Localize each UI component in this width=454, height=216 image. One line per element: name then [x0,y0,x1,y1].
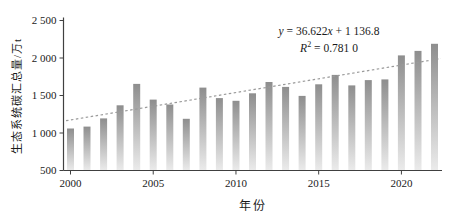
y-tick-label: 500 [40,164,57,176]
trendline-annotation: y = 36.622x + 1 136.8 R2 = 0.781 0 [245,24,413,55]
bar-2014 [299,96,306,171]
bar-2012 [266,82,273,171]
bar-2006 [166,105,173,171]
bar-2011 [249,93,256,170]
bar-2001 [84,127,91,171]
x-tick-label: 2000 [60,177,83,189]
bar-2004 [133,84,140,171]
bar-2000 [67,129,74,171]
y-tick-label: 1 500 [32,89,57,101]
y-tick-label: 1 000 [32,127,57,139]
bar-2003 [117,105,124,170]
x-tick-label: 2020 [390,177,413,189]
y-tick-label: 2 000 [32,52,57,64]
x-tick-label: 2015 [308,177,331,189]
bar-2013 [282,87,289,171]
bar-2022 [431,44,438,171]
bar-2002 [100,118,107,170]
trendline-r-squared: R2 = 0.781 0 [245,38,413,55]
bar-2018 [365,80,372,170]
bar-2017 [348,85,355,170]
bar-2019 [381,79,388,170]
bar-2007 [183,119,190,171]
bar-2021 [415,51,422,171]
y-tick-label: 2 500 [32,14,57,26]
bar-2010 [233,101,240,171]
carbon-sink-bar-chart: 5001 0001 5002 0002 50020002005201020152… [0,0,454,216]
bar-2005 [150,100,157,171]
bar-2009 [216,98,223,170]
bar-2015 [315,84,322,170]
bar-2008 [199,88,206,171]
x-tick-label: 2010 [225,177,248,189]
bar-2016 [332,75,339,171]
trendline-equation: y = 36.622x + 1 136.8 [245,24,413,38]
y-axis-title: 生态系统碳汇总量/万t [8,16,24,176]
x-axis-title: 年份 [63,196,443,214]
bar-2020 [398,55,405,170]
x-tick-label: 2005 [142,177,165,189]
